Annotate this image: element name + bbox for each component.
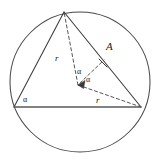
circumscribed-circle [10, 12, 150, 152]
radius-center-to-top [64, 12, 78, 85]
geometry-canvas [0, 0, 159, 165]
side-top-to-right [64, 12, 141, 107]
radius-center-to-point-a [80, 60, 104, 83]
geometry-figure: r r A α α α [0, 0, 159, 165]
label-alpha-left-vertex: α [23, 96, 27, 104]
label-r-lower: r [96, 96, 100, 105]
label-alpha-center-upper: α [77, 68, 81, 76]
label-point-a: A [106, 41, 113, 52]
label-alpha-center-lower: α [86, 76, 90, 84]
label-r-upper: r [55, 54, 59, 63]
